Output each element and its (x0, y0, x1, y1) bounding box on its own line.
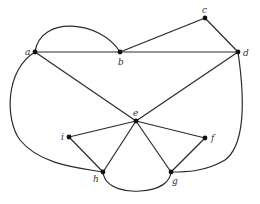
node-e (134, 119, 139, 124)
node-label-i: i (61, 132, 64, 142)
edge-f-g (171, 138, 205, 172)
node-label-a: a (25, 47, 30, 57)
node-d (236, 50, 241, 55)
node-label-d: d (243, 48, 249, 58)
edge-d-e (136, 52, 238, 121)
labels-layer: abcdeifhg (25, 5, 249, 186)
node-b (118, 50, 123, 55)
node-h (101, 170, 106, 175)
edge-e-i (69, 121, 136, 137)
node-label-e: e (133, 108, 138, 118)
node-label-h: h (93, 174, 99, 184)
curves-layer (10, 26, 242, 191)
edge-a-h-curved (10, 52, 103, 172)
edge-h-g-curved (103, 172, 171, 191)
edge-c-d (205, 18, 238, 52)
node-a (33, 50, 38, 55)
nodes-layer (33, 16, 241, 175)
node-c (203, 16, 208, 21)
node-label-c: c (202, 5, 207, 15)
edge-a-b-curved (35, 26, 120, 52)
edge-e-h (103, 121, 136, 172)
edge-d-g-curved (171, 52, 242, 172)
node-label-b: b (118, 57, 124, 67)
node-g (169, 170, 174, 175)
node-label-g: g (172, 176, 178, 186)
graph-diagram: abcdeifhg (0, 0, 260, 204)
node-i (67, 135, 72, 140)
edge-b-c (120, 18, 205, 52)
node-f (203, 136, 208, 141)
node-label-f: f (210, 133, 216, 143)
edges-layer (35, 18, 238, 172)
